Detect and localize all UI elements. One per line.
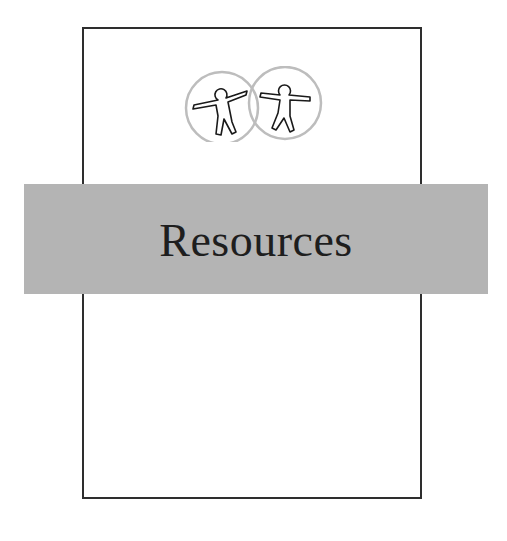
accessibility-figures-icon <box>184 66 324 142</box>
accessibility-logo <box>184 66 324 142</box>
page-title: Resources <box>159 214 353 267</box>
title-band: Resources <box>24 184 488 294</box>
